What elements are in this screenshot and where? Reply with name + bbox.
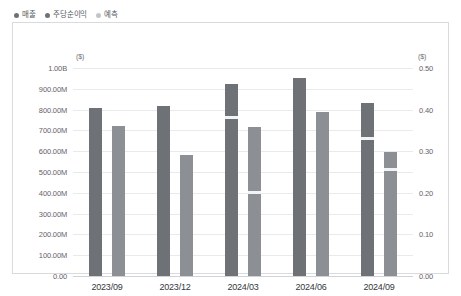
left-axis-tick-label: 800.00M	[39, 105, 67, 114]
eps-marker[interactable]	[225, 116, 238, 119]
left-axis-tick-label: 100.00M	[39, 251, 67, 260]
x-axis-tick-label: 2024/06	[295, 282, 326, 292]
legend-item-label: 매출	[22, 11, 36, 19]
bar-forecast[interactable]	[180, 155, 193, 276]
eps-marker[interactable]	[384, 168, 397, 171]
left-axis-tick-label: 400.00M	[39, 188, 67, 197]
stock-financials-chart: 매출주당순이익예측 ($) ($) 1.00B900.00M800.00M700…	[0, 0, 461, 296]
left-axis-unit: ($)	[76, 53, 84, 60]
bar-forecast[interactable]	[384, 152, 397, 276]
legend-item-label: 예측	[104, 11, 118, 19]
bar-forecast[interactable]	[248, 127, 261, 276]
left-axis-tick-label: 300.00M	[39, 209, 67, 218]
legend-dot-eps	[45, 13, 50, 18]
x-axis-tick-label: 2023/12	[159, 282, 190, 292]
gridline	[73, 276, 413, 277]
bar-revenue[interactable]	[157, 106, 170, 276]
chart-plot-frame: ($) ($) 1.00B900.00M800.00M700.00M600.00…	[12, 22, 449, 274]
eps-marker[interactable]	[361, 137, 374, 140]
legend-item[interactable]: 매출	[14, 11, 36, 19]
right-axis-tick-label: 0.30	[419, 147, 433, 156]
legend-item-label: 주당순이익	[53, 11, 88, 19]
bar-forecast[interactable]	[112, 126, 125, 276]
right-axis-tick-label: 0.10	[419, 230, 433, 239]
plot-area: 1.00B900.00M800.00M700.00M600.00M500.00M…	[73, 68, 413, 276]
legend-dot-forecast	[96, 13, 101, 18]
x-axis-tick-label: 2024/03	[227, 282, 258, 292]
legend-item[interactable]: 주당순이익	[45, 11, 88, 19]
bar-revenue[interactable]	[361, 103, 374, 276]
right-axis-tick-label: 0.20	[419, 188, 433, 197]
x-axis-tick-label: 2023/09	[91, 282, 122, 292]
right-axis-tick-label: 0.40	[419, 105, 433, 114]
bar-revenue[interactable]	[293, 78, 306, 276]
left-axis-tick-label: 1.00B	[48, 64, 67, 73]
gridline	[73, 89, 413, 90]
bar-revenue[interactable]	[225, 84, 238, 276]
right-axis-tick-label: 0.50	[419, 64, 433, 73]
x-axis-tick-label: 2024/09	[363, 282, 394, 292]
legend-item[interactable]: 예측	[96, 11, 118, 19]
chart-legend: 매출주당순이익예측	[14, 9, 118, 21]
right-axis-tick-label: 0.00	[419, 272, 433, 281]
gridline	[73, 68, 413, 69]
legend-dot-revenue	[14, 13, 19, 18]
right-axis-unit: ($)	[418, 53, 426, 60]
left-axis-tick-label: 200.00M	[39, 230, 67, 239]
eps-marker[interactable]	[248, 191, 261, 194]
left-axis-tick-label: 500.00M	[39, 168, 67, 177]
bar-revenue[interactable]	[89, 108, 102, 276]
bar-forecast[interactable]	[316, 112, 329, 276]
left-axis-tick-label: 0.00	[53, 272, 67, 281]
left-axis-tick-label: 700.00M	[39, 126, 67, 135]
left-axis-tick-label: 600.00M	[39, 147, 67, 156]
left-axis-tick-label: 900.00M	[39, 84, 67, 93]
